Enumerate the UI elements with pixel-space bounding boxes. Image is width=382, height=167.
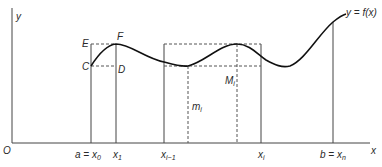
tick-b-xn-main: b = x [320,149,342,160]
mi-label: mi [192,102,202,113]
diagram-canvas [0,0,382,167]
y-axis-label: y [16,12,21,22]
tick-xi-1-sub: i−1 [166,154,176,161]
tick-x1-sub: 1 [118,154,122,161]
point-C-label: C [82,62,89,72]
tick-a-x0: a = x0 [75,150,101,161]
tick-x1: x1 [113,150,122,161]
Mi-label: Mi [225,76,235,87]
riemann-diagram: y x O y = f(x) E F C D Mi mi a = x0 x1 x… [0,0,382,167]
tick-a-x0-main: a = x [75,149,97,160]
tick-b-xn-sub: n [342,154,346,161]
mi-sub: i [200,106,202,113]
curve-label: y = f(x) [346,8,377,18]
point-D-label: D [118,65,125,75]
tick-b-xn: b = xn [320,150,346,161]
tick-xi: xi [258,150,265,161]
tick-xi-1: xi−1 [161,150,176,161]
point-E-label: E [82,39,89,49]
Mi-sub: i [233,80,235,87]
tick-a-x0-sub: 0 [97,154,101,161]
origin-label: O [3,146,11,156]
x-axis-label: x [371,146,376,156]
curve-f [91,14,346,67]
tick-xi-sub: i [263,154,265,161]
point-F-label: F [117,32,123,42]
